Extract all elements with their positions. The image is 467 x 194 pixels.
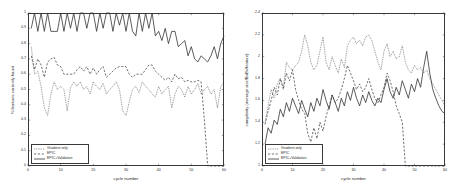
chart-panel-right: 11.21.41.61.822.22.40102030405060 cycle … bbox=[233, 0, 467, 194]
x-tick-label: 40 bbox=[157, 169, 161, 173]
y-tick-label: 1.2 bbox=[249, 142, 260, 146]
y-tick-label: 1 bbox=[249, 164, 260, 168]
legend-line-swatch-icon bbox=[268, 147, 279, 151]
legend-label: Gradient only bbox=[281, 147, 302, 151]
x-axis-title-right: cycle number bbox=[341, 176, 366, 181]
x-tick-label: 20 bbox=[321, 169, 325, 173]
y-tick-label: 0.9 bbox=[15, 27, 26, 31]
y-tick-label: 2.2 bbox=[249, 33, 260, 37]
y-tick-label: 0.5 bbox=[15, 88, 26, 92]
y-tick-label: 0.6 bbox=[15, 72, 26, 76]
legend-line-swatch-icon bbox=[34, 152, 45, 156]
y-tick-label: 0 bbox=[15, 164, 26, 168]
legend-label: EPIC bbox=[281, 152, 289, 156]
legend-line-swatch-icon bbox=[34, 147, 45, 151]
y-tick-label: 1.6 bbox=[249, 99, 260, 103]
legend-right: Gradient onlyEPICEPIC+Validation bbox=[265, 144, 323, 164]
x-tick-label: 50 bbox=[189, 169, 193, 173]
y-tick-label: 0.4 bbox=[15, 103, 26, 107]
x-axis-title-left: cycle number bbox=[114, 176, 139, 181]
legend-label: Gradient only bbox=[47, 147, 68, 151]
legend-line-swatch-icon bbox=[268, 157, 279, 161]
legend-line-swatch-icon bbox=[34, 157, 45, 161]
x-tick-label: 0 bbox=[261, 169, 263, 173]
chart-panel-left: 00.10.20.30.40.50.60.70.80.9101020304050… bbox=[0, 0, 234, 194]
y-tick-label: 1 bbox=[15, 11, 26, 15]
figure-root: 00.10.20.30.40.50.60.70.80.9101020304050… bbox=[0, 0, 467, 194]
y-tick-label: 0.3 bbox=[15, 118, 26, 122]
y-tick-label: 1.4 bbox=[249, 120, 260, 124]
x-tick-label: 10 bbox=[291, 169, 295, 173]
plot-lines-left bbox=[0, 0, 234, 194]
x-tick-label: 60 bbox=[222, 169, 226, 173]
y-tick-label: 0.7 bbox=[15, 57, 26, 61]
plot-lines-right bbox=[233, 0, 467, 194]
x-tick-label: 50 bbox=[413, 169, 417, 173]
legend-label: EPIC bbox=[47, 152, 55, 156]
legend-item: EPIC+Validation bbox=[268, 157, 320, 162]
y-axis-title-left: % features correctly found bbox=[10, 65, 15, 114]
legend-item: EPIC+Validation bbox=[34, 157, 86, 162]
legend-label: EPIC+Validation bbox=[281, 157, 306, 161]
y-tick-label: 0.2 bbox=[15, 134, 26, 138]
x-tick-label: 40 bbox=[382, 169, 386, 173]
y-tick-label: 0.1 bbox=[15, 149, 26, 153]
x-tick-label: 30 bbox=[124, 169, 128, 173]
x-tick-label: 0 bbox=[27, 169, 29, 173]
y-tick-label: 2.4 bbox=[249, 11, 260, 15]
x-tick-label: 60 bbox=[443, 169, 447, 173]
legend-label: EPIC+Validation bbox=[47, 157, 72, 161]
y-tick-label: 0.8 bbox=[15, 42, 26, 46]
x-tick-label: 30 bbox=[352, 169, 356, 173]
legend-line-swatch-icon bbox=[268, 152, 279, 156]
y-tick-label: 1.8 bbox=[249, 77, 260, 81]
x-tick-label: 20 bbox=[91, 169, 95, 173]
legend-left: Gradient onlyEPICEPIC+Validation bbox=[31, 144, 89, 164]
x-tick-label: 10 bbox=[59, 169, 63, 173]
y-tick-label: 2 bbox=[249, 55, 260, 59]
y-axis-title-right: complexity (average size/BoBs/feature) bbox=[244, 53, 249, 126]
